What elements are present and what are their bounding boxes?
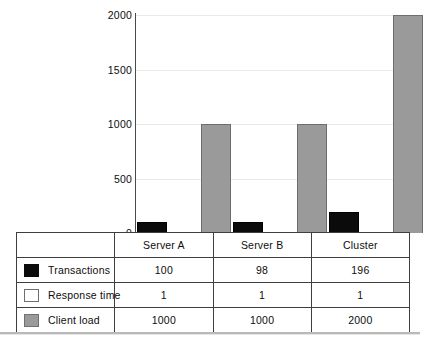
legend-label: Client load xyxy=(48,314,100,326)
table-cell-responsetime-cluster: 1 xyxy=(311,283,409,308)
table-cell-clientload-serverb: 1000 xyxy=(213,308,311,333)
table-cell-responsetime-servera: 1 xyxy=(115,283,213,308)
table-header-legend-cell xyxy=(17,233,115,258)
table-cell-transactions-servera: 100 xyxy=(115,258,213,283)
table-cell-responsetime-serverb: 1 xyxy=(213,283,311,308)
table-cell-clientload-cluster: 2000 xyxy=(311,308,409,333)
y-tick-label: 1000 xyxy=(108,118,132,130)
column-header-serverb: Server B xyxy=(213,233,311,258)
bar-clientload-servera xyxy=(201,124,231,233)
table-cell-clientload-servera: 1000 xyxy=(115,308,213,333)
footer-divider xyxy=(0,332,420,334)
bar-clientload-cluster xyxy=(393,15,423,233)
y-tick-label: 2000 xyxy=(108,9,132,21)
mid-gray-swatch-icon xyxy=(24,314,39,327)
data-table: Server AServer BClusterTransactions10098… xyxy=(16,232,410,333)
bar-transactions-cluster xyxy=(329,212,359,233)
table-row: Response time111 xyxy=(17,283,410,308)
legend-label: Transactions xyxy=(48,264,110,276)
bar-clientload-serverb xyxy=(297,124,327,233)
light-gray-swatch-icon xyxy=(24,289,39,302)
legend-entry: Response time xyxy=(17,289,114,302)
legend-cell-clientload: Client load xyxy=(17,308,115,333)
bar-groups xyxy=(136,15,410,233)
y-axis-tick-labels: 0500100015002000 xyxy=(96,15,132,233)
bar-group-cluster xyxy=(328,15,424,233)
table-cell-transactions-cluster: 196 xyxy=(311,258,409,283)
y-tick-label: 1500 xyxy=(108,64,132,76)
y-tick-label: 500 xyxy=(114,173,132,185)
table-row: Transactions10098196 xyxy=(17,258,410,283)
legend-entry: Client load xyxy=(17,314,114,327)
data-table-region: Server AServer BClusterTransactions10098… xyxy=(16,232,410,328)
table-cell-transactions-serverb: 98 xyxy=(213,258,311,283)
legend-cell-transactions: Transactions xyxy=(17,258,115,283)
column-header-cluster: Cluster xyxy=(311,233,409,258)
legend-label: Response time xyxy=(48,289,121,301)
table-row: Client load100010002000 xyxy=(17,308,410,333)
legend-entry: Transactions xyxy=(17,264,114,277)
column-header-servera: Server A xyxy=(115,233,213,258)
table-header-row: Server AServer BCluster xyxy=(17,233,410,258)
bar-group-serverb xyxy=(232,15,328,233)
chart-region: 0500100015002000 xyxy=(0,0,420,236)
bar-group-servera xyxy=(136,15,232,233)
black-swatch-icon xyxy=(24,264,39,277)
legend-cell-responsetime: Response time xyxy=(17,283,115,308)
plot-area xyxy=(136,15,410,233)
data-table-body: Server AServer BClusterTransactions10098… xyxy=(17,233,410,333)
